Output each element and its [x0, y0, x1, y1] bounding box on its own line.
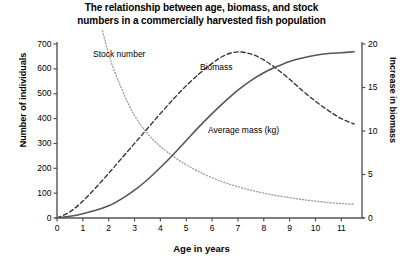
series-label-average-mass: Average mass (kg)	[208, 125, 279, 135]
plot-area	[0, 0, 403, 262]
series-label-stock-number: Stock number	[93, 49, 145, 59]
series-label-biomass: Biomass	[200, 62, 233, 72]
series-line-average-mass-kg	[57, 52, 354, 218]
series-lines	[57, 0, 354, 218]
chart-container: The relationship between age, biomass, a…	[0, 0, 403, 262]
series-line-stock-number	[57, 0, 354, 204]
series-line-biomass	[57, 52, 354, 218]
